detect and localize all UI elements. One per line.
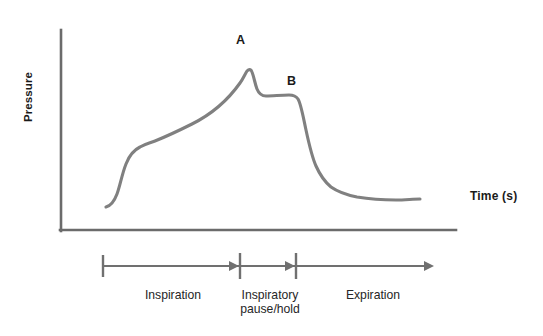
pressure-curve [106, 70, 420, 207]
pressure-curve-group [106, 70, 420, 207]
phase-label-inspiratory-pause-hold: Inspiratory pause/hold [224, 288, 316, 317]
phase-label-expiration: Expiration [330, 288, 416, 302]
phase-axis-end-arrow [424, 261, 434, 271]
pressure-time-waveform-chart [0, 0, 543, 336]
phase-arrow-pause [285, 261, 295, 271]
figure-container: Pressure Time (s) A B Inspiration Inspir… [0, 0, 543, 336]
phase-arrow-inspiration [229, 261, 239, 271]
annotation-label-a: A [236, 33, 245, 48]
x-axis-label: Time (s) [470, 189, 517, 203]
phase-timeline [103, 253, 434, 279]
y-axis-label: Pressure [22, 72, 36, 122]
phase-label-inspiration: Inspiration [128, 288, 218, 302]
annotation-label-b: B [287, 74, 296, 89]
